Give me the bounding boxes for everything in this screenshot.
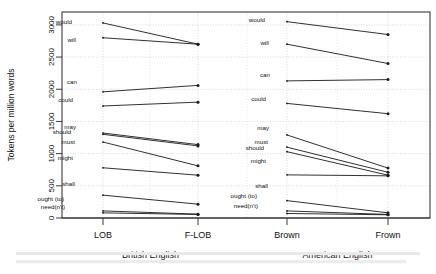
series-startpoint — [286, 21, 288, 23]
series-label: will — [66, 36, 76, 43]
series-endpoint — [387, 33, 390, 36]
x-tick-label-lob: LOB — [94, 230, 112, 240]
series-label: ought (to) — [38, 195, 64, 202]
series-endpoint — [197, 144, 200, 147]
series-endpoint — [197, 174, 200, 177]
series-endpoint — [197, 203, 200, 206]
series-label: will — [259, 39, 269, 46]
series-endpoint — [387, 112, 390, 115]
y-tick-label: 3000 — [47, 15, 56, 33]
series-label: should — [246, 144, 265, 151]
series-startpoint — [102, 141, 104, 143]
y-tick-label: 0 — [47, 215, 56, 220]
series-label: can — [67, 78, 78, 85]
chart-figure: Tokens per million words 050010001500200… — [0, 0, 436, 274]
series-label: could — [58, 96, 73, 103]
series-endpoint — [197, 43, 200, 46]
series-startpoint — [102, 194, 104, 196]
y-axis-title: Tokens per million words — [6, 68, 16, 161]
series-label: should — [53, 128, 72, 135]
y-tick-label: 2500 — [47, 48, 56, 66]
series-endpoint — [197, 213, 200, 216]
series-startpoint — [102, 91, 104, 93]
series-startpoint — [286, 200, 288, 202]
series-label: ought (to) — [231, 192, 257, 199]
series-startpoint — [102, 105, 104, 107]
series-startpoint — [102, 133, 104, 135]
series-startpoint — [286, 174, 288, 176]
series-label: might — [58, 154, 73, 161]
series-startpoint — [102, 22, 104, 24]
series-endpoint — [197, 101, 200, 104]
x-tick-label-frown: Frown — [375, 230, 400, 240]
series-label: shall — [62, 180, 75, 187]
y-tick-label: 500 — [47, 179, 56, 193]
y-tick-label: 2000 — [47, 80, 56, 98]
series-label: must — [62, 138, 76, 145]
series-label: shall — [255, 182, 268, 189]
series-label: need(n't) — [234, 202, 258, 209]
series-startpoint — [286, 134, 288, 136]
series-startpoint — [286, 213, 288, 215]
series-endpoint — [387, 167, 390, 170]
y-tick-label: 1000 — [47, 144, 56, 162]
series-startpoint — [286, 43, 288, 45]
modal-verbs-trend-plot: Tokens per million words 050010001500200… — [0, 0, 436, 274]
series-startpoint — [102, 167, 104, 169]
series-endpoint — [387, 213, 390, 216]
series-startpoint — [286, 80, 288, 82]
series-startpoint — [286, 210, 288, 212]
series-label: could — [251, 95, 266, 102]
series-endpoint — [387, 174, 390, 177]
series-label: may — [257, 124, 270, 131]
figure-background — [0, 0, 436, 274]
series-label: need(n't) — [41, 203, 65, 210]
series-label: would — [248, 16, 266, 23]
series-endpoint — [197, 84, 200, 87]
series-startpoint — [102, 210, 104, 212]
series-label: can — [260, 71, 271, 78]
series-label: might — [251, 157, 266, 164]
series-endpoint — [387, 62, 390, 65]
series-startpoint — [286, 151, 288, 153]
series-startpoint — [286, 146, 288, 148]
series-endpoint — [387, 78, 390, 81]
series-startpoint — [286, 103, 288, 105]
series-label: would — [55, 18, 73, 25]
x-tick-label-brown: Brown — [274, 230, 300, 240]
series-endpoint — [197, 164, 200, 167]
series-startpoint — [102, 212, 104, 214]
x-tick-label-f-lob: F-LOB — [185, 230, 212, 240]
series-startpoint — [102, 37, 104, 39]
series-endpoint — [387, 171, 390, 174]
